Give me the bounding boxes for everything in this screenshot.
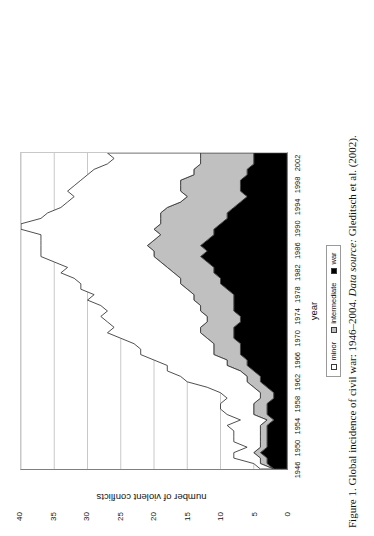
y-axis-tick-label: 5 xyxy=(251,512,259,536)
y-axis-tick-label: 20 xyxy=(150,512,158,536)
chart-plot-block: number of violent conflicts 051015202530… xyxy=(14,130,354,528)
legend-entry: war xyxy=(329,252,338,273)
figure-caption: Figure 1. Global incidence of civil war:… xyxy=(346,14,360,528)
legend-label: war xyxy=(329,252,338,264)
legend-swatch-icon xyxy=(331,327,337,333)
legend-swatch-icon xyxy=(331,364,337,370)
y-axis-title: number of violent conflicts xyxy=(37,492,267,503)
legend-entry: minor xyxy=(329,342,338,370)
y-axis-tick-label: 35 xyxy=(50,512,58,536)
x-axis-tick-label: 2002 xyxy=(294,146,302,180)
legend-entry: intermediate xyxy=(329,283,338,333)
rotated-figure-container: number of violent conflicts 051015202530… xyxy=(0,0,374,536)
y-axis-tick-label: 40 xyxy=(16,512,24,536)
caption-prefix: Figure 1. xyxy=(346,488,358,528)
x-axis-title: year xyxy=(308,152,319,470)
y-axis-tick-label: 15 xyxy=(184,512,192,536)
y-axis-tick-label: 0 xyxy=(284,512,292,536)
legend-label: minor xyxy=(329,342,338,361)
y-axis-tick-label: 30 xyxy=(83,512,91,536)
plot-area xyxy=(20,152,288,470)
figure-page: number of violent conflicts 051015202530… xyxy=(0,0,374,536)
caption-source-label: Data source: xyxy=(346,239,358,296)
caption-source-value: Gleditsch et al. (2002). xyxy=(346,135,358,236)
legend-swatch-icon xyxy=(331,268,337,274)
legend-label: intermediate xyxy=(329,283,338,324)
chart-legend: minorintermediatewar xyxy=(326,152,341,470)
y-axis-tick-label: 10 xyxy=(217,512,225,536)
stacked-area-chart xyxy=(21,153,287,469)
caption-main: Global incidence of civil war: 1946–2004… xyxy=(346,299,358,485)
legend-box: minorintermediatewar xyxy=(326,245,341,376)
y-axis-tick-label: 25 xyxy=(117,512,125,536)
